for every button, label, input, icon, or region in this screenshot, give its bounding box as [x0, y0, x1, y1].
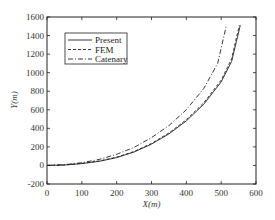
y-tick-label: 600	[31, 105, 45, 115]
y-tick-label: 800	[31, 86, 45, 96]
legend: PresentFEMCatenary	[65, 33, 128, 64]
legend-label-fem: FEM	[95, 45, 114, 55]
y-tick-label: 1600	[26, 12, 45, 22]
y-tick-label: 1200	[26, 49, 45, 59]
x-tick-label: 200	[110, 188, 124, 198]
y-tick-label: -200	[28, 179, 45, 189]
y-tick-label: 1000	[26, 68, 45, 78]
chart: 0100200300400500600 -2000200400600800100…	[0, 0, 275, 220]
x-tick-label: 0	[45, 188, 50, 198]
x-tick-label: 600	[249, 188, 263, 198]
x-tick-label: 500	[214, 188, 228, 198]
x-tick-label: 400	[180, 188, 194, 198]
legend-label-present: Present	[95, 35, 122, 45]
x-axis-label: X(m)	[142, 199, 161, 209]
y-axis-label: Y(m)	[9, 91, 19, 109]
legend-label-catenary: Catenary	[95, 54, 128, 64]
y-tick-label: 200	[31, 142, 45, 152]
x-tick-label: 300	[145, 188, 159, 198]
x-tick-label: 100	[75, 188, 89, 198]
y-tick-label: 1400	[26, 31, 45, 41]
y-tick-label: 400	[31, 123, 45, 133]
y-tick-label: 0	[40, 160, 45, 170]
